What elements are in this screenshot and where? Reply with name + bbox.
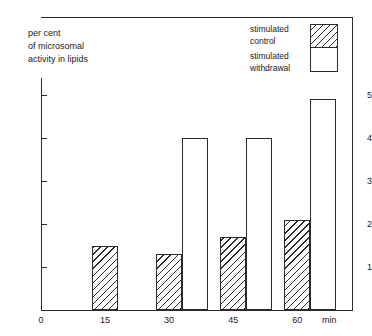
y-tick-2 <box>42 224 47 225</box>
x-axis-unit-label: min <box>322 316 337 325</box>
x-tick-label-30: 30 <box>154 316 184 325</box>
y-tick-1 <box>42 267 47 268</box>
x-axis-line <box>41 310 353 311</box>
y-tick-5 <box>42 95 47 96</box>
x-tick-label-60: 60 <box>282 316 312 325</box>
y-tick-label-2: 2 <box>344 220 372 229</box>
y-tick-label-3: 3 <box>344 177 372 186</box>
bar-white-30min <box>182 138 208 310</box>
y-tick-3 <box>42 181 47 182</box>
bar-white-60min <box>310 99 336 310</box>
y-tick-label-5: 5 <box>344 91 372 100</box>
x-tick-label-15: 15 <box>90 316 120 325</box>
bar-hatched-45min <box>220 237 246 310</box>
y-axis-title: per cent of microsomal activity in lipid… <box>28 27 88 66</box>
chart-legend: stimulated control stimulated withdrawal <box>250 22 346 76</box>
legend-swatch <box>310 24 338 72</box>
y-tick-label-1: 1 <box>344 263 372 272</box>
legend-label-stimulated-control: stimulated control <box>250 23 308 47</box>
y-tick-4 <box>42 138 47 139</box>
x-tick-label-0: 0 <box>26 316 56 325</box>
bar-hatched-60min <box>284 220 310 310</box>
legend-swatch-white <box>311 48 337 71</box>
x-tick-label-45: 45 <box>218 316 248 325</box>
bar-chart-figure: per cent of microsomal activity in lipid… <box>0 0 372 336</box>
y-tick-label-4: 4 <box>344 134 372 143</box>
bar-hatched-30min <box>156 254 182 310</box>
y-axis-line <box>41 78 42 311</box>
bar-hatched-15min <box>92 246 118 311</box>
legend-swatch-hatched <box>311 25 337 48</box>
legend-label-stimulated-withdrawal: stimulated withdrawal <box>250 50 308 74</box>
bar-white-45min <box>246 138 272 310</box>
